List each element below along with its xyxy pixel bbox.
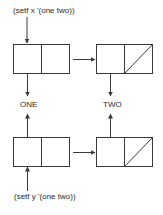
nil-slash <box>125 45 153 74</box>
x-cons-cell-2 <box>97 45 153 74</box>
y-cons-cell-1 <box>14 138 70 167</box>
atom-two-label: TWO <box>103 100 122 110</box>
y-cons-cell-2 <box>97 138 153 167</box>
y-expression-label: (setf y '(one two)) <box>14 192 76 202</box>
nil-slash <box>125 138 153 167</box>
x-expression-label: (setf x '(one two)) <box>13 6 75 16</box>
atom-one-label: ONE <box>20 100 37 110</box>
x-cons-cell-1 <box>14 45 70 74</box>
